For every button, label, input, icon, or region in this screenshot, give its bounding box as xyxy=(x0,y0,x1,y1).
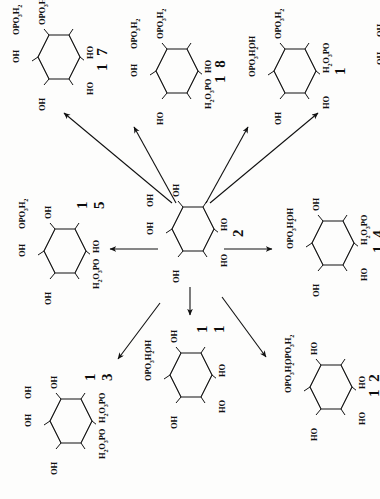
substituent-right: OH xyxy=(312,198,321,211)
substituent-right: OPO3H2 xyxy=(156,9,165,39)
structure-18[interactable]: OH OPO3H2 HO OPO3H2 H2O3PO HO 1 8 xyxy=(128,9,224,127)
substituent-down-right: HO xyxy=(92,240,101,253)
compound-number-11: 1 1 xyxy=(194,313,228,333)
substituent-up-right: OH xyxy=(376,24,380,37)
ring-1 xyxy=(268,43,320,99)
substituent-right: OH xyxy=(170,330,179,343)
substituent-up-left: OH xyxy=(12,50,21,63)
substituent-up-left: OPO3H2 xyxy=(286,219,295,249)
substituent-up-left: OPO3H2 xyxy=(284,363,293,393)
substituent-left: OH xyxy=(38,98,47,111)
structure-13[interactable]: OH OH OH OH H2O3PO H2O3PO 1 3 xyxy=(22,359,118,477)
reaction-scheme-canvas: OH OH OH OH H2O3PO H2O3PO 1 3 OH OPO3H2 … xyxy=(0,0,380,499)
substituent-down-left: H2O3PO xyxy=(92,259,101,289)
ring-17 xyxy=(32,29,84,85)
compound-number-12: 1 2 xyxy=(366,372,380,397)
substituent-down-left: HO xyxy=(220,254,229,267)
substituent-down-right: HO xyxy=(220,218,229,231)
substituent-up-left: OPO3H2 xyxy=(248,47,257,77)
substituent-down-right: H2O3PO xyxy=(360,215,369,245)
substituent-up-left: OH xyxy=(24,414,33,427)
substituent-down-right: H2O3PO xyxy=(322,43,331,73)
ring-12 xyxy=(304,359,356,415)
substituent-up-right: OPO3H2 xyxy=(18,199,27,229)
substituent-up-right: OH xyxy=(144,340,153,353)
ring-2 xyxy=(166,201,218,257)
substituent-down-right: H2O3PO xyxy=(98,393,107,423)
substituent-right: HO xyxy=(310,342,319,355)
ring-18 xyxy=(150,43,202,99)
substituent-down-left: HO xyxy=(358,412,367,425)
substituent-up-right: OH xyxy=(248,36,257,49)
ring-11 xyxy=(164,347,216,403)
substituent-up-left: OH xyxy=(18,244,27,257)
substituent-down-left: HO xyxy=(360,268,369,281)
compound-number-13: 1 3 xyxy=(82,359,116,381)
compound-number-18: 1 8 xyxy=(212,58,229,83)
substituent-right: OH xyxy=(172,184,181,197)
substituent-up-right: OH xyxy=(24,386,33,399)
substituent-up-right: OH xyxy=(146,194,155,207)
substituent-up-right: OPO3H2 xyxy=(284,335,293,365)
ring-13 xyxy=(44,393,96,449)
ring-15 xyxy=(38,223,90,279)
structure-16[interactable]: OH OH OH OPO3H2 HO H2O3PO 1 6 xyxy=(374,0,380,115)
compound-number-2: 2 xyxy=(230,228,247,238)
substituent-up-left: OH xyxy=(130,64,139,77)
substituent-left: OH xyxy=(312,284,321,297)
structure-11[interactable]: OPO3H2 OH OH OH HO HO 1 1 xyxy=(142,313,238,431)
substituent-left: HO xyxy=(156,112,165,125)
substituent-left: HO xyxy=(310,428,319,441)
structure-2[interactable]: OH OH OH OH HO HO 2 xyxy=(144,167,240,285)
substituent-up-left: OH xyxy=(376,52,380,65)
compound-number-15: 1 5 xyxy=(74,189,108,209)
ring-14 xyxy=(306,215,358,271)
compound-number-14: 1 4 xyxy=(370,228,380,253)
substituent-right: OPO3H2 xyxy=(274,9,283,39)
substituent-left: OH xyxy=(170,416,179,429)
structure-15[interactable]: OH OPO3H2 OH OH H2O3PO HO 1 5 xyxy=(16,189,112,307)
substituent-left: OH xyxy=(44,292,53,305)
structure-12[interactable]: OPO3H2 OPO3H2 HO HO HO HO 1 2 xyxy=(282,325,378,443)
compound-number-1: 1 xyxy=(332,66,349,76)
structure-17[interactable]: OH OPO3H2 OH OPO3H2 HO HO 1 7 xyxy=(10,0,106,113)
substituent-up-right: OPO3H2 xyxy=(130,19,139,49)
substituent-up-left: OPO3H2 xyxy=(144,351,153,381)
substituent-right: OH xyxy=(50,376,59,389)
substituent-left: OH xyxy=(172,270,181,283)
substituent-right: OPO3H2 xyxy=(38,0,47,25)
structure-14[interactable]: OPO3H2 OH OH OH HO H2O3PO 1 4 xyxy=(284,181,380,299)
substituent-left: OH xyxy=(50,462,59,475)
substituent-down-left: HO xyxy=(218,400,227,413)
substituent-up-right: OPO3H2 xyxy=(12,5,21,35)
substituent-left: OH xyxy=(274,112,283,125)
substituent-down-right: HO xyxy=(218,364,227,377)
substituent-down-left: H2O3PO xyxy=(204,79,213,109)
substituent-up-left: OH xyxy=(146,222,155,235)
substituent-up-right: OH xyxy=(286,208,295,221)
compound-number-17: 1 7 xyxy=(94,46,111,71)
substituent-down-left: HO xyxy=(86,82,95,95)
substituent-down-left: H2O3PO xyxy=(98,429,107,459)
substituent-right: OH xyxy=(44,206,53,219)
substituent-down-left: HO xyxy=(322,96,331,109)
structure-1[interactable]: OPO3H2 OH OH OPO3H2 HO H2O3PO 1 xyxy=(246,9,342,127)
